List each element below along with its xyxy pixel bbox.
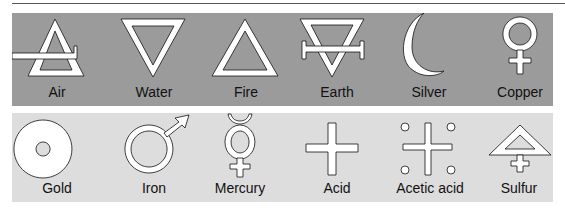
symbol-sulfur: Sulfur bbox=[474, 113, 564, 202]
copper-symbol-icon bbox=[475, 13, 565, 83]
symbol-acetic-acid: Acetic acid bbox=[385, 113, 475, 202]
gold-symbol-icon bbox=[12, 113, 102, 183]
symbol-label: Fire bbox=[201, 84, 291, 100]
symbol-label: Earth bbox=[292, 84, 382, 100]
elements-row: Air Water Fire Earth Silver bbox=[12, 13, 553, 106]
symbol-iron: Iron bbox=[109, 113, 199, 202]
acid-symbol-icon bbox=[292, 113, 382, 183]
symbol-label: Mercury bbox=[195, 180, 285, 196]
symbol-label: Iron bbox=[109, 180, 199, 196]
symbol-silver: Silver bbox=[384, 13, 474, 106]
symbol-label: Water bbox=[109, 84, 199, 100]
iron-symbol-icon bbox=[109, 113, 199, 183]
symbol-air: Air bbox=[12, 13, 102, 106]
sulfur-symbol-icon bbox=[474, 113, 564, 183]
symbol-label: Air bbox=[12, 84, 102, 100]
symbol-acid: Acid bbox=[292, 113, 382, 202]
symbol-label: Copper bbox=[475, 84, 565, 100]
water-symbol-icon bbox=[109, 13, 199, 83]
symbol-earth: Earth bbox=[292, 13, 382, 106]
symbol-label: Gold bbox=[12, 180, 102, 196]
fire-symbol-icon bbox=[201, 13, 291, 83]
air-symbol-icon bbox=[12, 13, 102, 83]
silver-symbol-icon bbox=[384, 13, 474, 83]
metals-and-compounds-row: Gold Iron Mercury Acid bbox=[12, 113, 553, 202]
earth-symbol-icon bbox=[292, 13, 382, 83]
top-rule bbox=[12, 3, 565, 4]
symbol-label: Sulfur bbox=[474, 180, 564, 196]
acetic-acid-symbol-icon bbox=[385, 113, 475, 183]
symbol-fire: Fire bbox=[201, 13, 291, 106]
symbol-label: Silver bbox=[384, 84, 474, 100]
symbol-label: Acetic acid bbox=[385, 180, 475, 196]
mercury-symbol-icon bbox=[195, 113, 285, 183]
symbol-label: Acid bbox=[292, 180, 382, 196]
symbol-water: Water bbox=[109, 13, 199, 106]
symbol-copper: Copper bbox=[475, 13, 565, 106]
symbol-gold: Gold bbox=[12, 113, 102, 202]
symbol-mercury: Mercury bbox=[195, 113, 285, 202]
